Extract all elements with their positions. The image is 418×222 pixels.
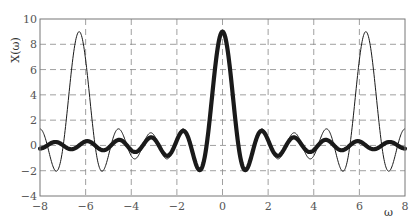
x-tick-label: 2 — [265, 200, 272, 213]
y-tick-label: −2 — [21, 165, 37, 178]
x-tick-label: 6 — [356, 200, 363, 213]
x-axis-label: ω — [384, 206, 393, 219]
x-tick-label: 0 — [219, 200, 226, 213]
y-axis-ticks: −4−20246810 — [21, 13, 37, 203]
y-tick-label: 8 — [30, 38, 37, 51]
y-tick-label: 10 — [23, 13, 37, 26]
spectrum-chart: −8−6−4−202468 −4−20246810 X(ω) ω — [0, 0, 418, 222]
x-tick-label: −2 — [169, 200, 185, 213]
y-tick-label: 6 — [30, 64, 37, 77]
y-tick-label: 4 — [30, 89, 37, 102]
x-tick-label: 8 — [402, 200, 409, 213]
x-tick-label: 4 — [310, 200, 317, 213]
y-tick-label: 2 — [30, 114, 37, 127]
y-tick-label: 0 — [30, 139, 37, 152]
x-tick-label: −4 — [123, 200, 139, 213]
x-tick-label: −6 — [78, 200, 94, 213]
y-axis-label: X(ω) — [9, 37, 22, 62]
x-axis-ticks: −8−6−4−202468 — [32, 200, 409, 213]
y-tick-label: −4 — [21, 190, 37, 203]
grid-lines — [40, 19, 405, 196]
